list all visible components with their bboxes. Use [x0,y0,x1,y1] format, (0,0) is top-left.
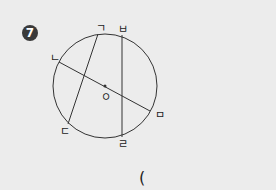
label-g: ㄱ [96,23,106,34]
center-point [104,85,107,88]
circle-diagram [0,0,276,190]
label-n: ㄴ [50,53,60,64]
label-b: ㅂ [118,24,128,35]
answer-parenthesis: ( [139,168,145,187]
label-r: ㄹ [118,139,128,150]
label-d: ㄷ [60,126,70,137]
label-o: ㅇ [101,92,111,103]
label-m: ㅁ [155,110,165,121]
chord-g-d [68,34,98,124]
